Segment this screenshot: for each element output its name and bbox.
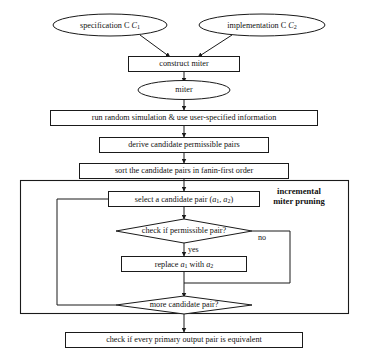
node-specification-label: specification C C1 <box>80 20 140 30</box>
node-more-pairs-label: more candidate pair? <box>150 300 219 309</box>
node-check-equivalent-label: check if every primary output pair is eq… <box>106 335 262 344</box>
edge-label-yes: yes <box>188 245 199 254</box>
node-derive-pairs-label: derive candidate permissible pairs <box>128 140 240 149</box>
node-replace-pair-label: replace a1 with a2 <box>155 259 214 269</box>
node-miter-label: miter <box>175 85 193 94</box>
flowchart-canvas: incremental miter pruning yes no <box>0 0 367 359</box>
group-label-line1: incremental <box>277 186 321 196</box>
node-implementation-label: implementation C C2 <box>227 20 296 30</box>
edge-specification-to-construct <box>140 35 170 57</box>
group-label-line2: miter pruning <box>273 196 325 206</box>
edge-more-loop-back-to-select <box>57 199 142 305</box>
edge-implementation-to-construct <box>198 35 232 57</box>
edge-label-no: no <box>258 233 266 242</box>
node-run-simulation-label: run random simulation & use user-specifi… <box>92 113 276 122</box>
node-check-permissible-label: check if permissible pair? <box>142 226 227 235</box>
node-sort-pairs-label: sort the candidate pairs in fanin-first … <box>115 166 254 175</box>
flowchart-svg: incremental miter pruning yes no <box>0 0 367 359</box>
node-select-pair-label: select a candidate pair (a1, a2) <box>135 194 234 204</box>
node-construct-miter-label: construct miter <box>159 59 209 68</box>
